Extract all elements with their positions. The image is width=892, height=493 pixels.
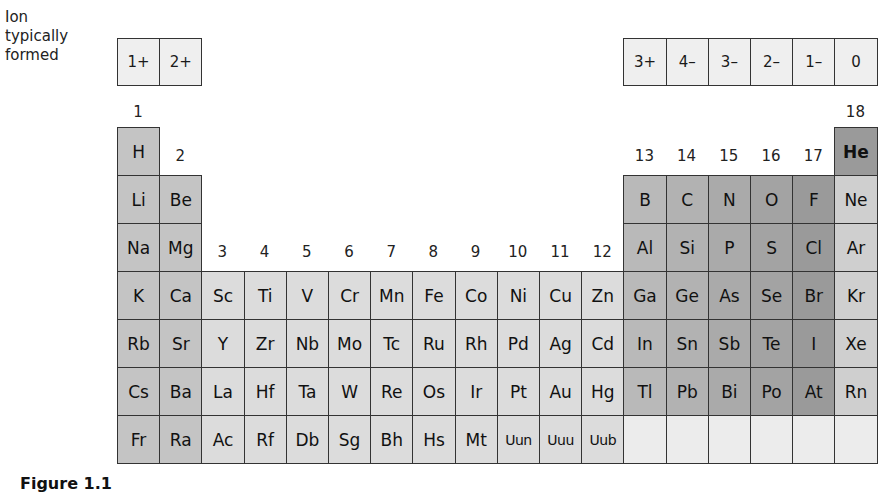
element-cell-te: Te (750, 319, 793, 368)
element-cell-hf: Hf (244, 367, 287, 416)
element-cell-at: At (792, 367, 835, 416)
element-cell-i: I (792, 319, 835, 368)
empty-cell (708, 415, 751, 464)
element-cell-w: W (328, 367, 371, 416)
legend-line-1: Ion (5, 8, 68, 27)
ion-charge-group-14: 4– (666, 38, 709, 86)
group-number-9: 9 (455, 243, 497, 261)
group-number-7: 7 (370, 243, 412, 261)
element-cell-he: He (834, 127, 877, 176)
group-number-5: 5 (286, 243, 328, 261)
element-cell-rf: Rf (244, 415, 287, 464)
element-cell-bh: Bh (370, 415, 413, 464)
element-cell-se: Se (750, 271, 793, 320)
element-cell-ac: Ac (201, 415, 244, 464)
element-cell-ba: Ba (159, 367, 202, 416)
group-number-18: 18 (834, 103, 876, 121)
element-cell-rh: Rh (455, 319, 498, 368)
element-cell-li: Li (117, 175, 160, 224)
element-cell-si: Si (666, 223, 709, 272)
element-cell-ge: Ge (666, 271, 709, 320)
element-cell-ga: Ga (623, 271, 666, 320)
figure-caption: Figure 1.1 (20, 474, 112, 493)
element-cell-y: Y (201, 319, 244, 368)
element-cell-hg: Hg (581, 367, 624, 416)
ion-charge-group-13: 3+ (623, 38, 666, 86)
element-cell-rn: Rn (834, 367, 877, 416)
empty-cell (792, 415, 835, 464)
element-cell-mt: Mt (455, 415, 498, 464)
group-number-4: 4 (244, 243, 286, 261)
element-cell-au: Au (539, 367, 582, 416)
ion-charge-group-15: 3– (708, 38, 751, 86)
element-cell-ag: Ag (539, 319, 582, 368)
element-cell-s: S (750, 223, 793, 272)
element-cell-br: Br (792, 271, 835, 320)
element-cell-na: Na (117, 223, 160, 272)
element-cell-o: O (750, 175, 793, 224)
element-cell-mo: Mo (328, 319, 371, 368)
element-cell-os: Os (412, 367, 455, 416)
group-number-14: 14 (666, 147, 708, 165)
empty-cell (623, 415, 666, 464)
ion-legend-label: Ion typically formed (5, 8, 68, 65)
element-cell-ni: Ni (497, 271, 540, 320)
group-number-6: 6 (328, 243, 370, 261)
element-cell-mn: Mn (370, 271, 413, 320)
element-cell-n: N (708, 175, 751, 224)
group-number-11: 11 (539, 243, 581, 261)
empty-cell (834, 415, 877, 464)
element-cell-pd: Pd (497, 319, 540, 368)
element-cell-rb: Rb (117, 319, 160, 368)
element-cell-co: Co (455, 271, 498, 320)
element-cell-fr: Fr (117, 415, 160, 464)
element-cell-cr: Cr (328, 271, 371, 320)
group-number-15: 15 (708, 147, 750, 165)
element-cell-hs: Hs (412, 415, 455, 464)
element-cell-po: Po (750, 367, 793, 416)
element-cell-cs: Cs (117, 367, 160, 416)
element-cell-ra: Ra (159, 415, 202, 464)
ion-charge-group-18: 0 (834, 38, 877, 86)
element-cell-pb: Pb (666, 367, 709, 416)
legend-line-2: typically (5, 27, 68, 46)
element-cell-sc: Sc (201, 271, 244, 320)
group-number-17: 17 (792, 147, 834, 165)
element-cell-v: V (286, 271, 329, 320)
element-cell-ti: Ti (244, 271, 287, 320)
element-cell-tl: Tl (623, 367, 666, 416)
element-cell-zr: Zr (244, 319, 287, 368)
element-cell-in: In (623, 319, 666, 368)
element-cell-db: Db (286, 415, 329, 464)
element-cell-h: H (117, 127, 160, 176)
ion-charge-group-2: 2+ (159, 38, 202, 86)
element-cell-b: B (623, 175, 666, 224)
element-cell-k: K (117, 271, 160, 320)
group-number-13: 13 (623, 147, 665, 165)
element-cell-la: La (201, 367, 244, 416)
element-cell-sr: Sr (159, 319, 202, 368)
group-number-2: 2 (159, 147, 201, 165)
element-cell-kr: Kr (834, 271, 877, 320)
group-number-8: 8 (412, 243, 454, 261)
element-cell-ir: Ir (455, 367, 498, 416)
element-cell-bi: Bi (708, 367, 751, 416)
element-cell-fe: Fe (412, 271, 455, 320)
group-number-12: 12 (581, 243, 623, 261)
element-cell-p: P (708, 223, 751, 272)
element-cell-tc: Tc (370, 319, 413, 368)
element-cell-c: C (666, 175, 709, 224)
ion-charge-group-1: 1+ (117, 38, 160, 86)
element-cell-sn: Sn (666, 319, 709, 368)
empty-cell (750, 415, 793, 464)
element-cell-pt: Pt (497, 367, 540, 416)
element-cell-xe: Xe (834, 319, 877, 368)
element-cell-cu: Cu (539, 271, 582, 320)
element-cell-al: Al (623, 223, 666, 272)
element-cell-cd: Cd (581, 319, 624, 368)
element-cell-ca: Ca (159, 271, 202, 320)
element-cell-uun: Uun (497, 415, 540, 464)
element-cell-sg: Sg (328, 415, 371, 464)
element-cell-re: Re (370, 367, 413, 416)
group-number-1: 1 (117, 103, 159, 121)
